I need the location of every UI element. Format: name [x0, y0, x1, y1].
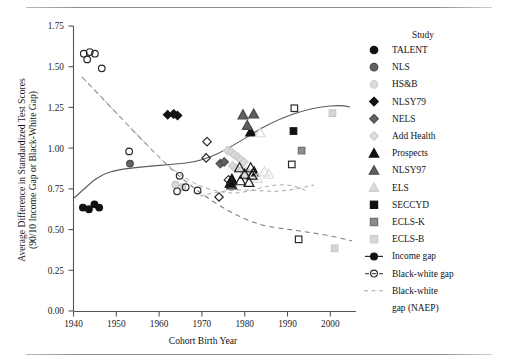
series-nls	[127, 160, 134, 167]
legend-marker-diamond	[370, 97, 379, 106]
series-seccyd	[290, 128, 297, 135]
black-white-gap-trend-line	[82, 77, 352, 241]
x-tick-label: 1990	[278, 319, 297, 329]
trend-curves-group	[74, 77, 352, 241]
axes-group	[74, 26, 357, 312]
legend-group: Study TALENTNLSHS&BNLSY79NELSAdd HealthP…	[364, 30, 454, 314]
data-point	[126, 148, 133, 155]
y-ticks-group: 0.00 0.25 0.50 0.75 1.00 1.25 1.50 1.75	[48, 21, 74, 316]
legend-item-label: Income gap	[392, 251, 436, 261]
y-tick-label: 1.50	[48, 62, 65, 72]
data-point	[172, 181, 179, 188]
series-nlsy79	[163, 110, 181, 120]
data-point	[174, 188, 181, 195]
series-talent	[80, 201, 103, 213]
data-point	[242, 120, 252, 129]
data-point	[291, 105, 298, 112]
legend-item[interactable]: Prospects	[369, 148, 428, 158]
legend-marker-triangle	[369, 148, 378, 157]
y-tick-label: 0.25	[48, 266, 65, 276]
series-ecls-b	[329, 110, 338, 252]
legend-item[interactable]: NLS	[370, 62, 409, 72]
naep-gap-trend-line	[84, 79, 308, 193]
legend-item[interactable]: ELS	[369, 183, 408, 193]
legend-item[interactable]: Income gap	[365, 251, 436, 261]
legend-item-label: TALENT	[392, 45, 428, 55]
legend-item-label: NLSY97	[392, 165, 426, 175]
data-point	[84, 56, 91, 63]
data-point	[289, 161, 296, 168]
legend-marker-circle	[371, 253, 378, 260]
x-tick-label: 2000	[321, 319, 340, 329]
x-tick-label: 1950	[107, 319, 126, 329]
data-points-layer	[80, 49, 338, 252]
series-nels	[216, 158, 228, 168]
top-divider-rule	[26, 7, 492, 8]
legend-marker-square	[370, 201, 377, 208]
legend-item[interactable]: gap (NAEP)	[392, 303, 439, 314]
income-gap-trend-line	[74, 106, 350, 198]
data-point	[215, 193, 223, 201]
legend-item-label: HS&B	[392, 79, 418, 89]
data-point	[298, 147, 305, 154]
x-ticks-group: 1940 1950 1960 1970 1980 1990 2000	[64, 312, 340, 330]
x-axis-title: Cohort Birth Year	[169, 335, 238, 346]
series-black-white-gap-open-circles-	[80, 49, 200, 195]
y-tick-label: 0.00	[48, 306, 65, 316]
legend-item-label: NLSY79	[392, 97, 426, 107]
legend-item[interactable]: TALENT	[370, 45, 428, 55]
legend-item-label: gap (NAEP)	[392, 303, 439, 314]
legend-item-label: Prospects	[392, 148, 428, 158]
data-point	[329, 110, 336, 117]
y-axis-title-line1: Average Difference in Standardized Test …	[16, 78, 27, 262]
legend-marker-square	[370, 236, 377, 243]
data-point	[98, 65, 105, 72]
data-point	[238, 110, 248, 119]
legend-item[interactable]: Black-white gap	[365, 269, 454, 279]
legend-marker-triangle	[369, 183, 378, 192]
scatter-plot-svg: 0.00 0.25 0.50 0.75 1.00 1.25 1.50 1.75 …	[0, 0, 508, 363]
y-tick-label: 1.00	[48, 144, 65, 154]
data-point	[295, 236, 302, 243]
legend-item-label: ELS	[392, 183, 409, 193]
legend-item-label: Black-white gap	[392, 269, 454, 279]
legend-marker-triangle	[369, 166, 378, 175]
y-tick-label: 1.25	[48, 103, 65, 113]
legend-item-label: SECCYD	[392, 200, 429, 210]
legend-title: Study	[412, 30, 434, 40]
legend-item[interactable]: Add Health	[370, 131, 436, 141]
data-point	[96, 204, 103, 211]
data-point	[86, 206, 93, 213]
series-income-gap-open-squares	[289, 105, 302, 243]
legend-item[interactable]: NLSY79	[370, 97, 426, 107]
y-tick-label: 0.50	[48, 225, 65, 235]
data-point	[127, 160, 134, 167]
legend-marker-square	[370, 218, 377, 225]
legend-item[interactable]: NELS	[370, 114, 416, 124]
x-tick-label: 1960	[150, 319, 169, 329]
legend-item[interactable]: HS&B	[370, 79, 417, 89]
data-point	[331, 245, 338, 252]
legend-item[interactable]: SECCYD	[370, 200, 429, 210]
legend-item[interactable]: NLSY97	[369, 165, 426, 175]
series-nlsy97	[238, 109, 259, 129]
series-ecls-k	[298, 147, 305, 154]
legend-item[interactable]: ECLS-B	[370, 234, 424, 244]
data-point	[290, 128, 297, 135]
x-tick-label: 1980	[235, 319, 254, 329]
legend-item-label: ECLS-K	[392, 217, 425, 227]
y-tick-label: 1.75	[48, 21, 65, 31]
legend-marker-circle	[370, 46, 378, 54]
legend-item-label: Add Health	[392, 131, 436, 141]
legend-marker-diamond	[370, 132, 379, 141]
y-axis-title-line2: (90/10 Income Gap or Black-White Gap)	[27, 91, 39, 249]
legend-item-label: ECLS-B	[392, 234, 424, 244]
legend-item-label: NLS	[392, 62, 410, 72]
legend-item-label: Black-white	[392, 286, 438, 296]
x-tick-label: 1940	[64, 319, 83, 329]
data-point	[249, 109, 259, 118]
data-point	[203, 137, 211, 145]
legend-item[interactable]: Black-white	[364, 286, 438, 296]
legend-item-label: NELS	[392, 114, 415, 124]
legend-item[interactable]: ECLS-K	[370, 217, 425, 227]
